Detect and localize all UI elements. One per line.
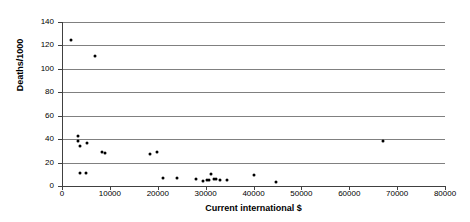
y-tick-label: 20 xyxy=(24,159,54,167)
data-point xyxy=(155,151,158,154)
data-point xyxy=(162,176,165,179)
data-point xyxy=(70,38,73,41)
x-tick-label: 50000 xyxy=(290,190,312,198)
y-axis-line xyxy=(62,22,63,187)
y-tick-label: 140 xyxy=(24,18,54,26)
y-tick-label: 60 xyxy=(24,112,54,120)
data-point xyxy=(210,173,213,176)
x-tick-label: 30000 xyxy=(195,190,217,198)
data-point xyxy=(79,145,82,148)
data-point xyxy=(201,180,204,183)
scatter-chart: Deaths/1000 Current international $ 0204… xyxy=(0,0,470,222)
y-tick-label: 40 xyxy=(24,135,54,143)
data-point xyxy=(195,177,198,180)
data-point xyxy=(76,134,79,137)
y-tick-label: 100 xyxy=(24,65,54,73)
data-point xyxy=(94,54,97,57)
y-tick-label: 80 xyxy=(24,88,54,96)
x-tick-label: 0 xyxy=(60,190,64,198)
gridline xyxy=(62,22,445,23)
y-tick-label: 120 xyxy=(24,41,54,49)
data-point xyxy=(76,140,79,143)
x-tick-label: 60000 xyxy=(338,190,360,198)
x-tick-label: 70000 xyxy=(386,190,408,198)
data-point xyxy=(275,181,278,184)
x-axis-title: Current international $ xyxy=(62,203,445,213)
x-axis-line xyxy=(62,186,445,187)
gridline xyxy=(62,45,445,46)
data-point xyxy=(215,177,218,180)
gridline xyxy=(62,163,445,164)
gridline xyxy=(62,69,445,70)
data-point xyxy=(219,179,222,182)
data-point xyxy=(252,174,255,177)
gridline xyxy=(62,116,445,117)
x-tick-label: 80000 xyxy=(434,190,456,198)
x-tick-label: 40000 xyxy=(242,190,264,198)
gridline xyxy=(62,139,445,140)
data-point xyxy=(176,176,179,179)
data-point xyxy=(208,179,211,182)
data-point xyxy=(226,179,229,182)
data-point xyxy=(381,140,384,143)
data-point xyxy=(85,141,88,144)
data-point xyxy=(84,172,87,175)
x-tick-label: 20000 xyxy=(147,190,169,198)
gridline xyxy=(62,92,445,93)
data-point xyxy=(149,153,152,156)
x-tick-label: 10000 xyxy=(99,190,121,198)
data-point xyxy=(104,152,107,155)
data-point xyxy=(79,172,82,175)
y-tick-label: 0 xyxy=(24,182,54,190)
